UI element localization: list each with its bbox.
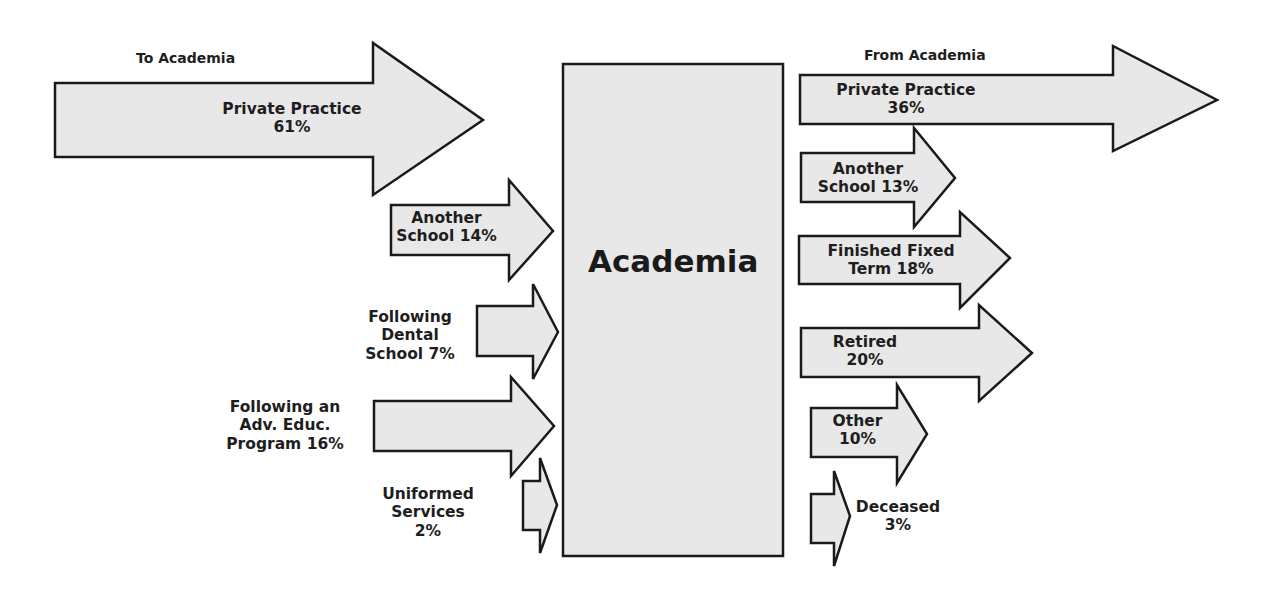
label-value: 36% [806, 99, 1006, 117]
label-line: Private Practice [806, 81, 1006, 99]
flow-diagram [0, 0, 1277, 605]
arrow-in-adv-educ [374, 377, 554, 476]
inflow-label-private-practice: Private Practice 61% [202, 100, 382, 137]
academia-box [563, 64, 783, 556]
label-value: 20% [815, 351, 915, 369]
arrow-in-dental-school [477, 284, 558, 379]
label-value: School 13% [808, 178, 928, 196]
label-line: Uniformed [368, 485, 488, 503]
outflow-label-private-practice: Private Practice 36% [806, 81, 1006, 118]
inflow-label-adv-educ: Following an Adv. Educ. Program 16% [205, 398, 365, 453]
arrow-out-deceased [811, 471, 850, 566]
label-value: School 14% [384, 227, 509, 245]
inflow-label-uniformed-services: Uniformed Services 2% [368, 485, 488, 540]
label-line: Following [350, 308, 470, 326]
label-line: Another [384, 209, 509, 227]
label-value: School 7% [350, 345, 470, 363]
outflow-label-another-school: Another School 13% [808, 160, 928, 197]
academia-title: Academia [588, 243, 758, 279]
inflow-label-another-school: Another School 14% [384, 209, 509, 246]
label-line: Deceased [848, 498, 948, 516]
label-value: Term 18% [806, 260, 976, 278]
label-value: Program 16% [205, 435, 365, 453]
label-line: Other [820, 412, 895, 430]
outflow-label-retired: Retired 20% [815, 333, 915, 370]
label-value: 3% [848, 516, 948, 534]
outflow-label-deceased: Deceased 3% [848, 498, 948, 535]
label-line: Following an [205, 398, 365, 416]
label-line: Adv. Educ. [205, 416, 365, 434]
to-academia-header: To Academia [136, 50, 235, 66]
arrow-in-uniformed-services [523, 458, 557, 553]
label-value: 61% [202, 118, 382, 136]
label-value: 2% [368, 522, 488, 540]
outflow-label-finished-fixed-term: Finished Fixed Term 18% [806, 242, 976, 279]
label-line: Another [808, 160, 928, 178]
outflow-label-other: Other 10% [820, 412, 895, 449]
label-line: Finished Fixed [806, 242, 976, 260]
label-line: Private Practice [202, 100, 382, 118]
label-line: Retired [815, 333, 915, 351]
label-value: 10% [820, 430, 895, 448]
label-line: Dental [350, 326, 470, 344]
from-academia-header: From Academia [864, 47, 986, 63]
inflow-label-dental-school: Following Dental School 7% [350, 308, 470, 363]
label-line: Services [368, 503, 488, 521]
